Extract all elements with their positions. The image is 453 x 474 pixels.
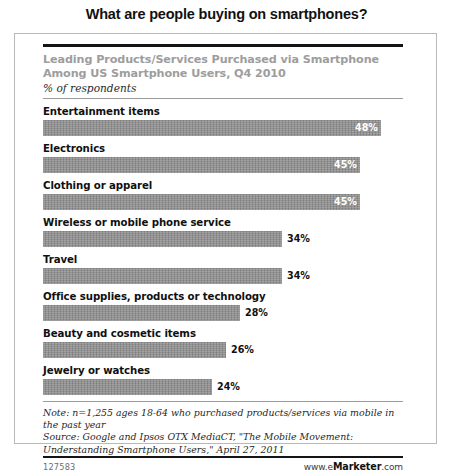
- bar-value-label: 45%: [334, 195, 357, 209]
- bar-track: 24%: [43, 379, 403, 395]
- emarketer-brand: www.eMarketer.com: [304, 461, 403, 472]
- bar-fill: [43, 305, 240, 321]
- bar-category-label: Travel: [43, 253, 403, 266]
- note-line-1: Note: n=1,255 ages 18-64 who purchased p…: [43, 407, 401, 419]
- bar-row: Jewelry or watches24%: [43, 364, 403, 395]
- chart-header-title-line2: Among US Smartphone Users, Q4 2010: [43, 67, 403, 81]
- bar-value-label: 48%: [355, 121, 378, 135]
- bar-value-label: 28%: [245, 306, 268, 320]
- brand-prefix: www.e: [304, 462, 333, 472]
- bar-fill: [43, 342, 226, 358]
- bar-track: 45%: [43, 194, 403, 210]
- bar-track: 34%: [43, 268, 403, 284]
- bar-track: 34%: [43, 231, 403, 247]
- bar-fill: [43, 231, 282, 247]
- chart-header-title-line1: Leading Products/Services Purchased via …: [43, 53, 403, 67]
- bar-value-label: 26%: [231, 343, 254, 357]
- bar-chart-plot: Entertainment items48%Electronics45%Clot…: [43, 99, 403, 395]
- chart-id: 127583: [43, 462, 75, 472]
- bar-category-label: Electronics: [43, 142, 403, 155]
- bar-category-label: Wireless or mobile phone service: [43, 216, 403, 229]
- bar-category-label: Jewelry or watches: [43, 364, 403, 377]
- bar-category-label: Entertainment items: [43, 105, 403, 118]
- source-line-2: Understanding Smartphone Users," April 2…: [43, 444, 401, 456]
- bar-fill: [43, 157, 360, 173]
- bar-row: Office supplies, products or technology2…: [43, 290, 403, 321]
- bar-track: 45%: [43, 157, 403, 173]
- bar-category-label: Office supplies, products or technology: [43, 290, 403, 303]
- bar-category-label: Clothing or apparel: [43, 179, 403, 192]
- bar-value-label: 24%: [217, 380, 240, 394]
- bar-track: 48%: [43, 120, 403, 136]
- bar-fill: [43, 120, 381, 136]
- bar-track: 26%: [43, 342, 403, 358]
- bar-track: 28%: [43, 305, 403, 321]
- note-line-2: the past year: [43, 419, 401, 431]
- bar-row: Beauty and cosmetic items26%: [43, 327, 403, 358]
- bar-row: Clothing or apparel45%: [43, 179, 403, 210]
- bar-value-label: 45%: [334, 158, 357, 172]
- bar-fill: [43, 379, 212, 395]
- chart-notes: Note: n=1,255 ages 18-64 who purchased p…: [43, 402, 401, 456]
- bar-fill: [43, 194, 360, 210]
- bar-row: Travel34%: [43, 253, 403, 284]
- bar-category-label: Beauty and cosmetic items: [43, 327, 403, 340]
- chart-frame: Leading Products/Services Purchased via …: [14, 33, 437, 444]
- brand-name: Marketer: [333, 461, 381, 472]
- page-title: What are people buying on smartphones?: [0, 6, 453, 22]
- brand-suffix: .com: [381, 462, 403, 472]
- bar-row: Electronics45%: [43, 142, 403, 173]
- chart-header-subtitle: % of respondents: [43, 80, 403, 95]
- chart-footer: 127583 www.eMarketer.com: [43, 458, 403, 474]
- bar-value-label: 34%: [287, 232, 310, 246]
- source-line-1: Source: Google and Ipsos OTX MediaCT, "T…: [43, 431, 401, 443]
- chart-inner: Leading Products/Services Purchased via …: [43, 44, 403, 474]
- bar-value-label: 34%: [287, 269, 310, 283]
- bar-row: Entertainment items48%: [43, 105, 403, 136]
- bar-fill: [43, 268, 282, 284]
- chart-header: Leading Products/Services Purchased via …: [43, 47, 403, 98]
- bar-row: Wireless or mobile phone service34%: [43, 216, 403, 247]
